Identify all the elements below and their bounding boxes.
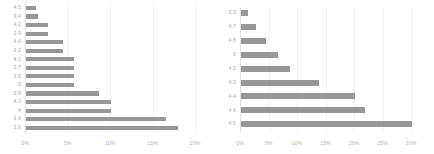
bar — [26, 23, 48, 27]
bar — [26, 109, 111, 113]
category-axis-label: 3.4 — [0, 14, 21, 19]
bar — [26, 91, 99, 95]
category-axis-label: 4.5 — [0, 5, 21, 10]
value-axis-tick-label: 20% — [343, 141, 365, 146]
bar-chart-left: 4.53.44.23.94.43.24.13.73.503.84.343.63.… — [0, 0, 217, 154]
value-axis-tick-label: 15% — [142, 141, 164, 146]
gridline — [297, 8, 298, 133]
bar — [26, 117, 166, 121]
bar — [26, 74, 74, 78]
bar — [26, 126, 178, 130]
gridline — [110, 2, 111, 133]
category-axis-label: 0 — [0, 82, 21, 87]
bar — [26, 83, 74, 87]
category-axis-label: 3.2 — [0, 48, 21, 53]
figure-canvas: 4.53.44.23.94.43.24.13.73.503.84.343.63.… — [0, 0, 434, 154]
bar — [241, 121, 412, 127]
bar — [241, 10, 248, 16]
gridline — [195, 2, 196, 133]
value-axis-tick-label: 5% — [258, 141, 280, 146]
category-axis-label: 4.4 — [217, 94, 236, 99]
category-axis-label: 4.8 — [217, 38, 236, 43]
category-axis-label: 3.8 — [0, 91, 21, 96]
category-axis-label: 4.6 — [217, 108, 236, 113]
category-axis-label: 4.1 — [0, 57, 21, 62]
value-axis-tick-label: 10% — [286, 141, 308, 146]
value-axis-tick-label: 15% — [315, 141, 337, 146]
value-axis-tick-label: 25% — [372, 141, 394, 146]
bar — [241, 52, 278, 58]
category-axis-label: 3.9 — [0, 31, 21, 36]
bar — [241, 24, 256, 30]
bar — [241, 93, 355, 99]
bar — [26, 32, 48, 36]
bar — [241, 38, 266, 44]
category-axis-label: 3.7 — [0, 65, 21, 70]
bar — [26, 14, 38, 18]
category-axis-label: 0 — [217, 52, 236, 57]
value-axis-tick-label: 10% — [99, 141, 121, 146]
plot-area-left: 4.53.44.23.94.43.24.13.73.503.84.343.63.… — [0, 0, 217, 154]
category-axis-label: 3.9 — [0, 125, 21, 130]
category-axis-label: 3.5 — [0, 74, 21, 79]
category-axis-label: 4.4 — [0, 39, 21, 44]
bar — [26, 57, 74, 61]
category-axis-label: 4.3 — [217, 80, 236, 85]
category-axis-label: 4.2 — [217, 66, 236, 71]
value-axis-tick-label: 5% — [57, 141, 79, 146]
gridline — [383, 8, 384, 133]
bar — [241, 80, 319, 86]
bar — [26, 66, 74, 70]
bar — [26, 49, 63, 53]
bar — [241, 66, 290, 72]
category-axis-label: 4 — [0, 108, 21, 113]
category-axis-label: 4.7 — [217, 24, 236, 29]
gridline — [354, 8, 355, 133]
bar — [241, 107, 365, 113]
gridline — [326, 8, 327, 133]
bar — [26, 40, 63, 44]
value-axis-tick-label: 0% — [14, 141, 36, 146]
value-axis-tick-label: 0% — [229, 141, 251, 146]
category-axis-label: 3.3 — [217, 10, 236, 15]
value-axis-tick-label: 20% — [184, 141, 206, 146]
bar-chart-right: 3.34.74.804.24.34.44.64.50%5%10%15%20%25… — [217, 0, 434, 154]
gridline — [153, 2, 154, 133]
gridline — [411, 8, 412, 133]
category-axis-label: 4.2 — [0, 22, 21, 27]
category-axis-label: 3.6 — [0, 116, 21, 121]
category-axis-label: 4.3 — [0, 99, 21, 104]
bar — [26, 100, 111, 104]
value-axis-tick-label: 30% — [400, 141, 422, 146]
category-axis-label: 4.5 — [217, 121, 236, 126]
plot-area-right: 3.34.74.804.24.34.44.64.50%5%10%15%20%25… — [217, 0, 434, 154]
bar — [26, 6, 36, 10]
